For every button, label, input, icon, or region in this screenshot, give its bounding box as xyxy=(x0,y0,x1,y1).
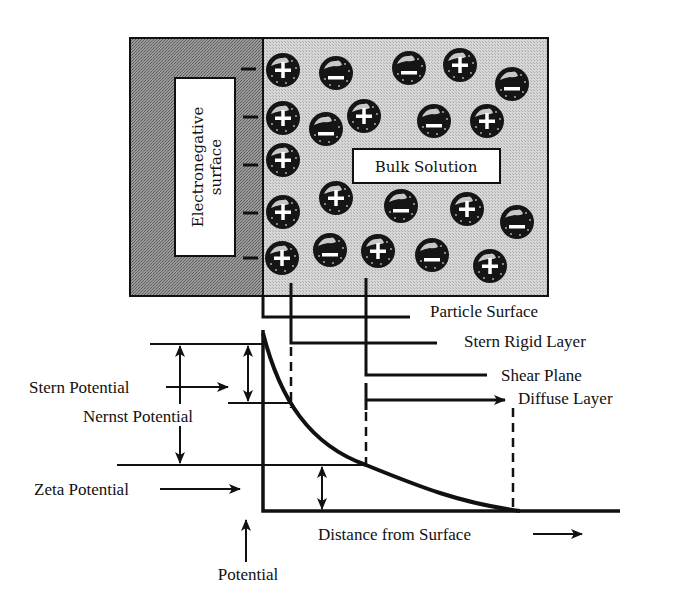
particle-cross-section: Electronegative surface Bulk Solution xyxy=(130,38,548,296)
zeta-potential-label: Zeta Potential xyxy=(34,480,129,499)
cation-icon xyxy=(361,234,395,268)
cation-icon xyxy=(266,53,300,87)
potential-decay-curve xyxy=(263,333,520,511)
cation-icon xyxy=(266,143,300,177)
shear-plane-label: Shear Plane xyxy=(501,366,582,385)
cation-icon xyxy=(347,99,381,133)
cation-icon xyxy=(266,101,300,135)
plot-axes xyxy=(263,330,620,511)
particle-surface-label: Particle Surface xyxy=(430,302,538,321)
surface-label-line2: surface xyxy=(207,139,225,195)
particle-surface-leader xyxy=(263,296,410,317)
cation-icon xyxy=(450,192,484,226)
potential-axis-label: Potential xyxy=(218,565,279,584)
anion-icon xyxy=(500,205,534,239)
anion-icon xyxy=(495,67,529,101)
cation-icon xyxy=(473,249,507,283)
distance-axis-label: Distance from Surface xyxy=(318,525,471,544)
cation-icon xyxy=(443,48,477,82)
anion-icon xyxy=(313,233,347,267)
cation-icon xyxy=(470,104,504,138)
stern-rigid-layer-label: Stern Rigid Layer xyxy=(464,332,586,351)
cation-icon xyxy=(265,241,299,275)
cation-icon xyxy=(266,195,300,229)
anion-icon xyxy=(417,104,451,138)
anion-icon xyxy=(309,112,343,146)
anion-icon xyxy=(319,56,353,90)
anion-icon xyxy=(392,51,426,85)
anion-icon xyxy=(415,238,449,272)
surface-label-line1: Electronegative xyxy=(189,107,207,228)
stern-potential-label: Stern Potential xyxy=(29,378,130,397)
double-layer-diagram: Electronegative surface Bulk Solution Pa… xyxy=(0,0,675,610)
cation-icon xyxy=(319,181,353,215)
bulk-solution-label: Bulk Solution xyxy=(375,158,478,176)
anion-icon xyxy=(384,189,418,223)
diffuse-layer-label: Diffuse Layer xyxy=(518,389,613,408)
nernst-potential-label: Nernst Potential xyxy=(83,407,193,426)
